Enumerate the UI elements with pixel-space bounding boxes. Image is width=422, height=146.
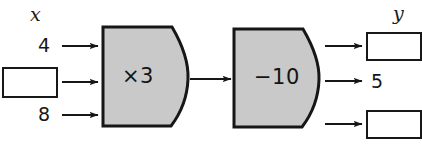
machine-label-subtract: −10 [254,67,300,88]
input-variable-label: x [30,5,41,24]
output-variable-label: y [393,4,404,23]
function-machine-figure: x 4 8 ×3 −10 y 5 [0,0,422,146]
input-value-top: 4 [38,36,50,55]
input-box-middle[interactable] [2,67,58,98]
input-value-bottom: 8 [38,105,50,124]
output-box-top[interactable] [366,32,422,61]
diagram-vector-layer [0,0,422,146]
output-box-bottom[interactable] [366,110,422,139]
machine-label-multiply: ×3 [122,66,154,87]
output-value-middle: 5 [371,72,383,91]
